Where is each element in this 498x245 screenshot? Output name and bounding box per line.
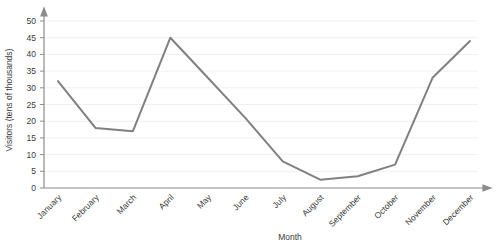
- y-axis-tick-label: 40: [27, 49, 37, 59]
- y-axis-tick-label: 0: [31, 183, 36, 193]
- y-axis-tick-label: 10: [27, 150, 37, 160]
- x-axis-arrow-icon: [483, 185, 491, 191]
- y-axis-tick-label: 15: [27, 133, 37, 143]
- gridlines: [44, 21, 478, 171]
- data-series-line: [58, 38, 470, 180]
- x-axis-tick-label: February: [70, 192, 102, 224]
- y-axis-title: Visitors (tens of thousands): [4, 48, 14, 151]
- x-axis-tick-label: April: [157, 192, 176, 211]
- y-axis-tick-label: 50: [27, 16, 37, 26]
- x-axis-title: Month: [278, 232, 302, 242]
- y-axis-tick-label: 35: [27, 66, 37, 76]
- y-axis-tick-label: 20: [27, 116, 37, 126]
- y-axis-tick-label: 30: [27, 83, 37, 93]
- y-axis-tick-label: 45: [27, 33, 37, 43]
- x-axis-tick-label: January: [35, 192, 64, 221]
- x-axis-tick-label: March: [115, 192, 139, 216]
- x-axis-tick-label: July: [270, 192, 288, 210]
- y-axis-tick-label: 25: [27, 100, 37, 110]
- y-axis-tick-labels: 05101520253035404550: [27, 16, 37, 193]
- x-axis-tick-label: October: [372, 192, 401, 221]
- y-axis-arrow-icon: [41, 8, 47, 16]
- x-axis-tick-label: May: [195, 192, 214, 211]
- x-axis-tick-label: September: [327, 192, 364, 229]
- x-axis-tick-label: November: [403, 192, 438, 227]
- x-axis-tick-label: December: [441, 192, 476, 227]
- line-chart: 05101520253035404550 JanuaryFebruaryMarc…: [0, 0, 498, 245]
- x-axis-tick-label: August: [300, 192, 326, 218]
- y-axis-tick-label: 5: [31, 166, 36, 176]
- x-axis-tick-label: June: [231, 192, 251, 212]
- x-axis-tick-labels: JanuaryFebruaryMarchAprilMayJuneJulyAugu…: [35, 192, 476, 229]
- chart-canvas: 05101520253035404550 JanuaryFebruaryMarc…: [0, 0, 498, 245]
